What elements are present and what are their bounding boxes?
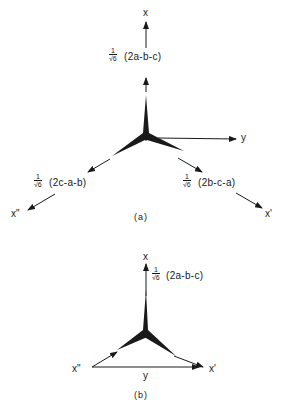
expression-top-b: (2a-b-c) xyxy=(166,271,203,281)
fraction-right-a: 1 √6 xyxy=(183,173,191,188)
axis-x-label-b: x xyxy=(143,252,148,262)
axis-x-double-prime-label-a: x" xyxy=(11,209,20,219)
star-shape-b xyxy=(117,290,176,356)
expression-left-a: (2c-a-b) xyxy=(49,178,86,188)
fraction-left-a: 1 √6 xyxy=(34,173,42,188)
axis-x-prime-label-b: x' xyxy=(209,364,216,374)
axis-x-double-prime-label-b: x" xyxy=(72,364,81,374)
star-shape-a xyxy=(112,95,184,156)
axis-x-label-a: x xyxy=(143,8,148,18)
fraction-numerator: 1 xyxy=(109,47,117,55)
caption-b: (b) xyxy=(134,391,148,400)
expression-right-a: (2b-c-a) xyxy=(198,178,235,188)
fraction-numerator: 1 xyxy=(34,173,42,181)
axis-x-prime-label-a: x' xyxy=(265,209,272,219)
caption-a: (a) xyxy=(134,213,148,222)
axis-y-label-a: y xyxy=(241,133,246,143)
fraction-numerator: 1 xyxy=(152,266,160,274)
fraction-top-b: 1 √6 xyxy=(152,266,160,281)
fraction-denominator: √6 xyxy=(109,55,117,62)
fraction-denominator: √6 xyxy=(152,274,160,281)
fraction-denominator: √6 xyxy=(34,181,42,188)
axis-y-label-b: y xyxy=(143,371,148,381)
fraction-numerator: 1 xyxy=(183,173,191,181)
fraction-denominator: √6 xyxy=(183,181,191,188)
fraction-top-a: 1 √6 xyxy=(109,47,117,62)
expression-top-a: (2a-b-c) xyxy=(124,52,161,62)
